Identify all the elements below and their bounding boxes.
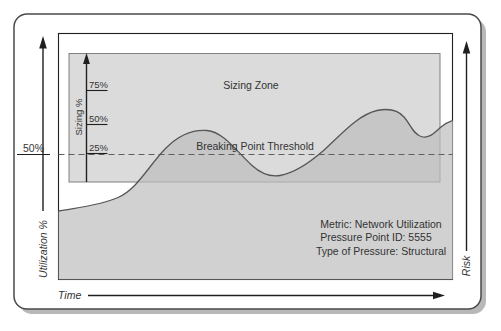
metric-line: Metric: Network Utilization (320, 218, 442, 230)
sizing-tick-50-label: 50% (89, 113, 109, 124)
capacity-diagram: Utilization % 50% Time Risk Sizing % 75%… (0, 0, 501, 331)
fifty-percent-label: 50% (23, 142, 44, 154)
diagram-canvas: Utilization % 50% Time Risk Sizing % 75%… (0, 0, 501, 331)
pressure-type-line: Type of Pressure: Structural (316, 245, 446, 257)
metric-info-block: Metric: Network Utilization Pressure Poi… (316, 218, 446, 257)
time-axis-label: Time (58, 289, 81, 301)
sizing-tick-25-label: 25% (89, 142, 109, 153)
sizing-zone-title: Sizing Zone (223, 79, 279, 91)
threshold-label: Breaking Point Threshold (196, 140, 314, 152)
pressure-point-line: Pressure Point ID: 5555 (320, 231, 432, 243)
risk-axis-label: Risk (460, 255, 472, 276)
sizing-tick-75-label: 75% (89, 79, 109, 90)
sizing-axis-label: Sizing % (73, 98, 84, 136)
utilization-axis-label: Utilization % (37, 220, 49, 278)
